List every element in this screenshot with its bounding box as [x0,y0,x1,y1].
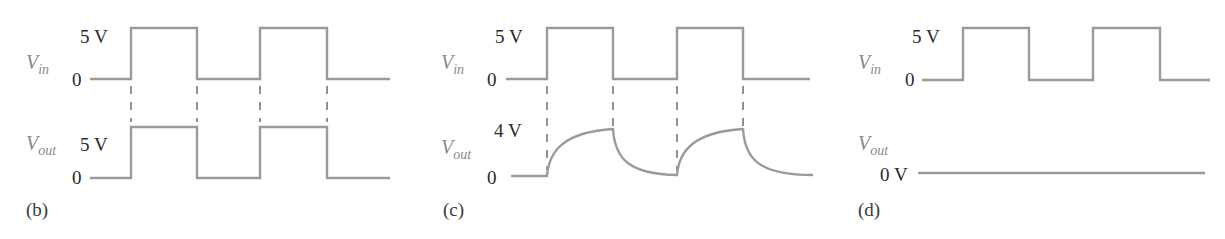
panel-b: 5 V Vin 0 Vout 5 V 0 (b) [0,0,405,239]
waveform-plot [820,0,1225,239]
vout-trace [90,127,390,178]
vin-trace [506,28,810,79]
panel-d: 5 V Vin 0 Vout 0 V (d) [820,0,1225,239]
vin-trace [922,28,1210,80]
waveform-plot [0,0,405,239]
waveform-plot [410,0,820,239]
vout-trace [511,129,813,176]
vin-trace [90,28,390,79]
panel-c: 5 V Vin 0 4 V Vout 0 (c) [410,0,820,239]
